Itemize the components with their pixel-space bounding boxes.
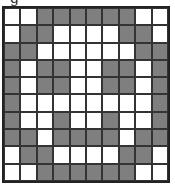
grid-cell-r0-c8 — [135, 8, 151, 25]
grid-cell-r5-c6 — [102, 94, 118, 111]
grid-cell-r4-c0 — [4, 77, 20, 94]
grid-cell-r5-c2 — [37, 94, 53, 111]
grid-cell-r3-c1 — [20, 60, 36, 77]
grid-cell-r6-c4 — [70, 112, 86, 129]
grid-cell-r3-c3 — [53, 60, 69, 77]
grid-cell-r3-c5 — [86, 60, 102, 77]
grid-cell-r9-c5 — [86, 164, 102, 181]
grid-cell-r1-c0 — [4, 25, 20, 42]
grid-cell-r5-c9 — [152, 94, 168, 111]
grid-cell-r7-c7 — [119, 129, 135, 146]
grid-cell-r8-c8 — [135, 146, 151, 163]
grid-cell-r8-c4 — [70, 146, 86, 163]
grid-cell-r9-c1 — [20, 164, 36, 181]
grid-cell-r4-c7 — [119, 77, 135, 94]
grid-cell-r7-c8 — [135, 129, 151, 146]
grid-cell-r6-c3 — [53, 112, 69, 129]
grid-cell-r3-c8 — [135, 60, 151, 77]
grid-cell-r6-c1 — [20, 112, 36, 129]
grid-cell-r0-c4 — [70, 8, 86, 25]
grid-cell-r4-c5 — [86, 77, 102, 94]
grid-cell-r1-c2 — [37, 25, 53, 42]
grid-cell-r9-c3 — [53, 164, 69, 181]
grid-cell-r6-c8 — [135, 112, 151, 129]
grid-cell-r4-c2 — [37, 77, 53, 94]
grid-cell-r9-c2 — [37, 164, 53, 181]
grid-cell-r6-c0 — [4, 112, 20, 129]
grid-cell-r6-c6 — [102, 112, 118, 129]
grid-cell-r4-c6 — [102, 77, 118, 94]
grid-cell-r9-c4 — [70, 164, 86, 181]
grid-cell-r5-c0 — [4, 94, 20, 111]
grid-cell-r2-c8 — [135, 43, 151, 60]
grid-cell-r8-c9 — [152, 146, 168, 163]
grid-cell-r6-c7 — [119, 112, 135, 129]
grid-cell-r8-c1 — [20, 146, 36, 163]
grid-cell-r4-c4 — [70, 77, 86, 94]
grid-cell-r8-c7 — [119, 146, 135, 163]
grid-cell-r1-c1 — [20, 25, 36, 42]
grid-cell-r2-c1 — [20, 43, 36, 60]
grid-cell-r3-c7 — [119, 60, 135, 77]
grid-cell-r8-c0 — [4, 146, 20, 163]
grid-cell-r7-c0 — [4, 129, 20, 146]
grid-cell-r0-c1 — [20, 8, 36, 25]
grid-cell-r8-c3 — [53, 146, 69, 163]
grid-cell-r7-c4 — [70, 129, 86, 146]
grid-cell-r2-c5 — [86, 43, 102, 60]
grid-cell-r3-c4 — [70, 60, 86, 77]
grid-cell-r8-c6 — [102, 146, 118, 163]
grid-cell-r3-c6 — [102, 60, 118, 77]
grid-cell-r5-c1 — [20, 94, 36, 111]
grid-cell-r4-c9 — [152, 77, 168, 94]
grid-cell-r7-c6 — [102, 129, 118, 146]
grid-cell-r2-c0 — [4, 43, 20, 60]
grid-cell-r3-c0 — [4, 60, 20, 77]
grid-cell-r2-c2 — [37, 43, 53, 60]
grid-cell-r7-c3 — [53, 129, 69, 146]
grid-cell-r6-c5 — [86, 112, 102, 129]
grid-cell-r2-c4 — [70, 43, 86, 60]
grid-cell-r7-c1 — [20, 129, 36, 146]
grid-cell-r0-c7 — [119, 8, 135, 25]
grid-cell-r9-c0 — [4, 164, 20, 181]
grid-cell-r1-c8 — [135, 25, 151, 42]
grid-cell-r7-c9 — [152, 129, 168, 146]
grid-cell-r2-c9 — [152, 43, 168, 60]
grid-cell-r5-c5 — [86, 94, 102, 111]
grid-cell-r2-c6 — [102, 43, 118, 60]
grid-cell-r2-c3 — [53, 43, 69, 60]
grid-cell-r0-c6 — [102, 8, 118, 25]
grid-cell-r9-c6 — [102, 164, 118, 181]
grid-cell-r5-c8 — [135, 94, 151, 111]
grid-cell-r1-c3 — [53, 25, 69, 42]
grid-cell-r6-c9 — [152, 112, 168, 129]
grid-cell-r5-c3 — [53, 94, 69, 111]
grid-cell-r1-c4 — [70, 25, 86, 42]
grid-cell-r4-c8 — [135, 77, 151, 94]
grid-cell-r5-c4 — [70, 94, 86, 111]
grid-cell-r7-c5 — [86, 129, 102, 146]
grid-cell-r0-c2 — [37, 8, 53, 25]
grid-cell-r8-c2 — [37, 146, 53, 163]
grid-cell-r0-c9 — [152, 8, 168, 25]
grid-cell-r3-c9 — [152, 60, 168, 77]
grid-cell-r1-c5 — [86, 25, 102, 42]
pattern-grid — [2, 6, 170, 183]
grid-cell-r8-c5 — [86, 146, 102, 163]
grid-cell-r1-c7 — [119, 25, 135, 42]
grid-cell-r9-c9 — [152, 164, 168, 181]
grid-cell-r2-c7 — [119, 43, 135, 60]
grid-cell-r6-c2 — [37, 112, 53, 129]
grid-cell-r3-c2 — [37, 60, 53, 77]
grid-cell-r0-c5 — [86, 8, 102, 25]
grid-cell-r1-c6 — [102, 25, 118, 42]
grid-cell-r4-c3 — [53, 77, 69, 94]
grid-cell-r9-c8 — [135, 164, 151, 181]
grid-cell-r1-c9 — [152, 25, 168, 42]
grid-cell-r0-c3 — [53, 8, 69, 25]
grid-cell-r9-c7 — [119, 164, 135, 181]
grid-cell-r7-c2 — [37, 129, 53, 146]
grid-cell-r5-c7 — [119, 94, 135, 111]
grid-cell-r0-c0 — [4, 8, 20, 25]
